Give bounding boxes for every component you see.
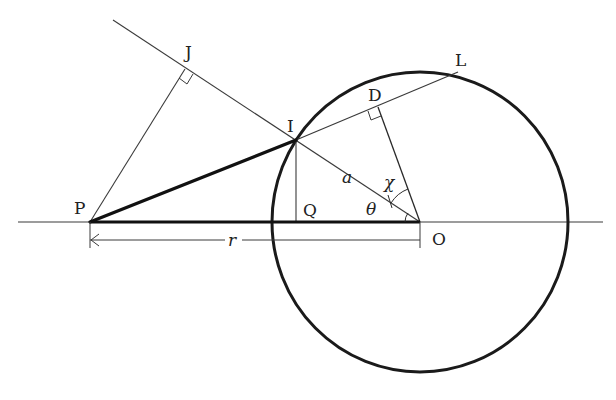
label-theta: θ: [366, 199, 376, 219]
right-angle-D: [368, 111, 381, 120]
label-I: I: [287, 116, 294, 136]
label-L: L: [455, 50, 466, 70]
label-Q: Q: [303, 200, 317, 220]
segment-IL: [296, 72, 458, 140]
label-a: a: [342, 167, 352, 187]
segment-OD: [378, 107, 420, 222]
label-D: D: [368, 85, 382, 105]
geometry-diagram: J L D I P Q O a χ θ r: [0, 0, 616, 400]
label-J: J: [183, 42, 192, 62]
label-r: r: [228, 230, 237, 250]
line-JIO: [113, 20, 420, 222]
segment-PI: [90, 140, 296, 222]
label-O: O: [432, 229, 446, 249]
label-chi: χ: [383, 172, 396, 192]
segment-PJ: [90, 69, 185, 222]
label-P: P: [74, 198, 85, 218]
